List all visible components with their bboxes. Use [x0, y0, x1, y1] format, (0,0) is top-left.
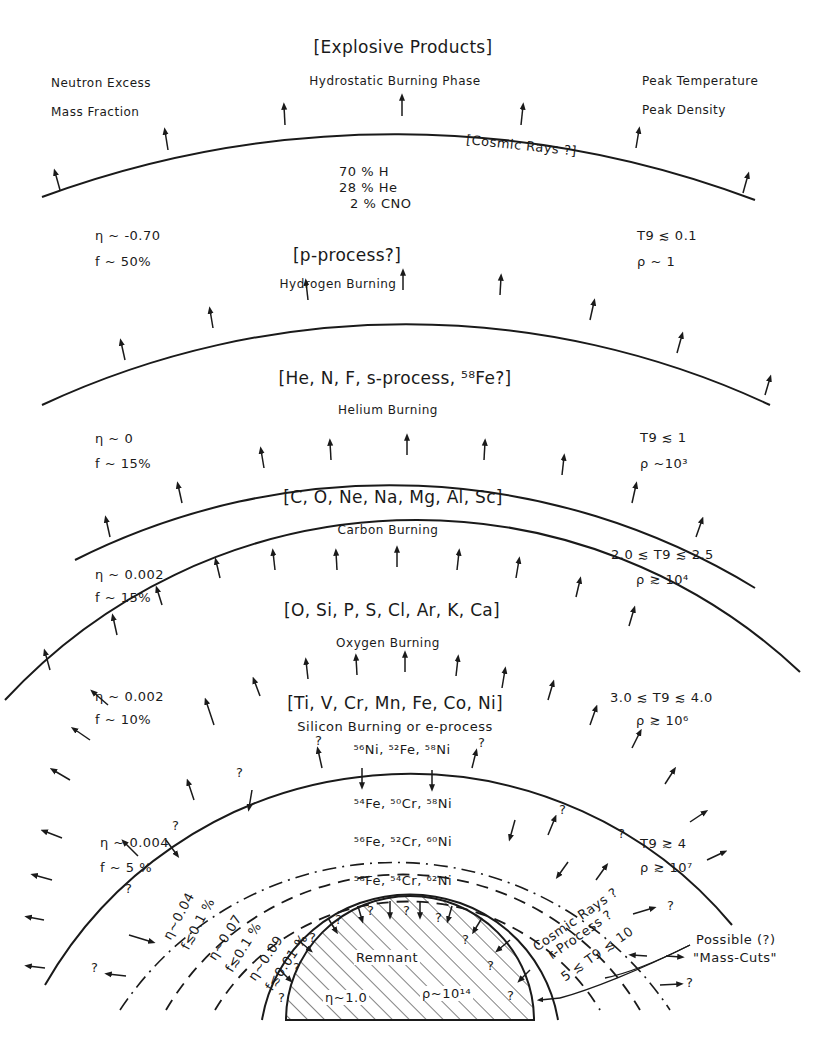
rho-envelope: ρ ~ 1	[637, 254, 675, 269]
f-silicon: f ~ 5 %	[100, 860, 152, 875]
boundary-question: ?	[236, 765, 243, 780]
rho-helium: ρ ≳ 10⁴	[636, 572, 689, 587]
eta-helium: η ~ 0.002	[95, 567, 164, 582]
core-shell-question: ?	[487, 958, 494, 973]
f-helium: f ~ 15%	[95, 590, 151, 605]
f-carbon: f ~ 10%	[95, 712, 151, 727]
boundary-question: ?	[315, 733, 322, 748]
f-envelope: f ~ 50%	[95, 254, 151, 269]
mass-cuts-label-line1: Possible (?)	[696, 932, 776, 947]
silicon-products: [Ti, V, Cr, Mn, Fe, Co, Ni]	[287, 693, 503, 713]
fe58-shell-isotopes: ⁵⁸Fe, ⁵⁴Cr, ⁶²Ni	[354, 873, 452, 888]
composition-he: 28 % He	[339, 180, 397, 195]
core-shell-question: ?	[293, 960, 300, 975]
eta-envelope: η ~ -0.70	[95, 228, 161, 243]
fe54-shell-isotopes: ⁵⁴Fe, ⁵⁰Cr, ⁵⁸Ni	[354, 796, 452, 811]
boundary-question: ?	[91, 960, 98, 975]
eta-carbon: η ~ 0.002	[95, 689, 164, 704]
boundary-question: ?	[478, 735, 485, 750]
oxygen-burning-label: Oxygen Burning	[336, 636, 440, 650]
carbon-burning-label: Carbon Burning	[338, 523, 439, 537]
composition-cno: 2 % CNO	[350, 196, 411, 211]
eta-hydrogen: η ~ 0	[95, 431, 133, 446]
core-shell-question: ?	[367, 903, 374, 918]
boundary-question: ?	[172, 818, 179, 833]
eta-silicon: η ~ 0.004	[100, 835, 169, 850]
boundary-question: ?	[686, 975, 693, 990]
hydrogen-shell-arc	[42, 324, 770, 405]
core-shell-question: ?	[403, 903, 410, 918]
remnant-label: Remnant	[354, 950, 420, 965]
core-shell-question: ?	[507, 988, 514, 1003]
core-shell-question: ?	[278, 990, 285, 1005]
helium-burning-label: Helium Burning	[338, 403, 438, 417]
fe56-shell-isotopes: ⁵⁶Fe, ⁵²Cr, ⁶⁰Ni	[354, 834, 452, 849]
core-shell-question: ?	[335, 912, 342, 927]
carbon-products: [C, O, Ne, Na, Mg, Al, Sc]	[283, 487, 502, 507]
ni56-shell-isotopes: ⁵⁶Ni, ⁵²Fe, ⁵⁸Ni	[353, 742, 450, 757]
peak-density-header: Peak Density	[642, 103, 726, 117]
oxygen-products: [O, Si, P, S, Cl, Ar, K, Ca]	[284, 600, 500, 620]
explosive-products-header: [Explosive Products]	[314, 37, 493, 57]
rho-hydrogen: ρ ~10³	[640, 456, 688, 471]
outer-surface-arc	[42, 134, 755, 200]
neutron-excess-header: Neutron Excess	[51, 76, 151, 90]
boundary-question: ?	[618, 826, 625, 841]
composition-h: 70 % H	[339, 164, 389, 179]
rho-carbon: ρ ≳ 10⁶	[636, 713, 689, 728]
hydrogen-burning-label: Hydrogen Burning	[280, 277, 397, 291]
boundary-question: ?	[559, 802, 566, 817]
boundary-question: ?	[667, 898, 674, 913]
t9-silicon: T9 ≳ 4	[640, 836, 687, 851]
f-hydrogen: f ~ 15%	[95, 456, 151, 471]
t9-envelope: T9 ≲ 0.1	[637, 228, 697, 243]
boundary-question: ?	[125, 881, 132, 896]
mass-fraction-header: Mass Fraction	[51, 105, 139, 119]
core-shell-question: ?	[462, 932, 469, 947]
core-shell-question: ?	[435, 910, 442, 925]
mass-cuts-label-line2: "Mass-Cuts"	[693, 950, 777, 965]
helium-products: [He, N, F, s-process, ⁵⁸Fe?]	[279, 368, 512, 388]
t9-carbon: 3.0 ≲ T9 ≲ 4.0	[610, 690, 713, 705]
rho-silicon: ρ ≳ 10⁷	[640, 860, 693, 875]
peak-temperature-header: Peak Temperature	[642, 74, 758, 88]
p-process-products: [p-process?]	[293, 245, 401, 265]
remnant-eta: η~1.0	[323, 990, 369, 1005]
core-shell-question: ?	[309, 930, 316, 945]
silicon-burning-label: Silicon Burning or e-process	[297, 719, 492, 734]
remnant-density: ρ~10¹⁴	[420, 986, 473, 1001]
t9-hydrogen: T9 ≲ 1	[640, 430, 687, 445]
burning-phase-header: Hydrostatic Burning Phase	[309, 74, 480, 88]
t9-helium: 2.0 ≲ T9 ≲ 2.5	[611, 547, 714, 562]
